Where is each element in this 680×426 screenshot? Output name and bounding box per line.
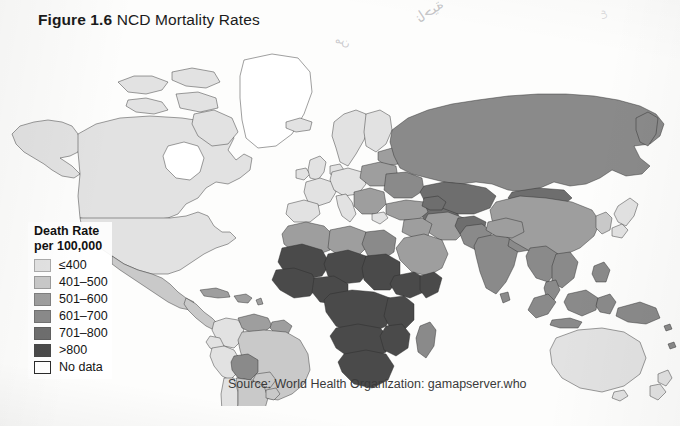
region-italy (336, 194, 356, 222)
region-balkans (354, 188, 386, 214)
region-sri-lanka (500, 292, 510, 303)
figure-number: Figure 1.6 (38, 11, 112, 28)
source-caption: Source: World Health Organization: gamap… (228, 377, 527, 391)
region-java (550, 318, 582, 328)
legend-swatch (34, 344, 51, 357)
legend-swatch (34, 259, 51, 272)
legend-item: >800 (34, 342, 108, 359)
legend-label: ≤400 (59, 259, 87, 272)
region-arctic-island-b (172, 68, 220, 88)
region-sulawesi (596, 294, 616, 314)
legend-label: 501–600 (59, 293, 108, 306)
region-finland (364, 110, 392, 152)
region-pacific-islands (664, 324, 672, 331)
region-hispaniola (234, 294, 252, 303)
region-japan (614, 198, 638, 226)
legend-item: ≤400 (34, 257, 108, 274)
legend-title-line1: Death Rate (34, 224, 108, 239)
region-united-kingdom (308, 156, 326, 180)
bleed-through-mark-secondary: ع (598, 5, 609, 19)
legend-label: 601–700 (59, 310, 108, 323)
figure-title-text: NCD Mortality Rates (117, 11, 260, 28)
region-turkey (386, 200, 428, 220)
legend-items: ≤400401–500501–600601–700701–800>800No d… (30, 257, 108, 376)
map-legend: Death Rate per 100,000 ≤400401–500501–60… (28, 222, 112, 379)
legend-swatch (34, 310, 51, 323)
region-madagascar (416, 322, 436, 358)
region-korea (596, 212, 612, 234)
region-iberia (286, 200, 320, 222)
bleed-through-annotation: ناحية (412, 0, 447, 27)
region-tasmania (612, 390, 628, 401)
legend-item: No data (34, 359, 108, 376)
region-australia (550, 328, 646, 392)
region-arctic-islands (118, 76, 168, 94)
region-greece (372, 212, 388, 224)
region-arctic-island-c (126, 98, 168, 114)
legend-label: 701–800 (59, 327, 108, 340)
legend-swatch (34, 293, 51, 306)
legend-label: No data (59, 361, 103, 374)
region-cuba (200, 288, 230, 298)
region-new-zealand-north (658, 370, 672, 386)
region-arctic-island-d (176, 92, 218, 112)
legend-item: 701–800 (34, 325, 108, 342)
region-ukraine (384, 172, 424, 198)
region-arabian-peninsula (396, 234, 448, 276)
region-alaska (12, 120, 82, 178)
region-russian-federation (390, 94, 664, 192)
legend-swatch (34, 276, 51, 289)
region-new-zealand-south (650, 384, 666, 400)
legend-label: >800 (59, 344, 87, 357)
region-sumatra (528, 294, 556, 318)
legend-title: Death Rate per 100,000 (34, 224, 108, 253)
legend-swatch (34, 361, 51, 374)
region-central-america (184, 298, 218, 330)
region-papua-new-guinea (616, 302, 660, 324)
region-fiji (668, 342, 676, 349)
region-philippines (592, 262, 610, 282)
legend-label: 401–500 (59, 276, 108, 289)
figure-title: Figure 1.6 NCD Mortality Rates (38, 11, 260, 29)
region-somalia (420, 272, 442, 298)
region-borneo (564, 290, 598, 316)
legend-item: 601–700 (34, 308, 108, 325)
figure-page: Figure 1.6 NCD Mortality Rates ناحية من … (0, 0, 680, 426)
region-lesser-antilles (256, 298, 263, 305)
region-greenland (240, 54, 312, 148)
legend-item: 501–600 (34, 291, 108, 308)
legend-swatch (34, 327, 51, 340)
region-japan-south (612, 224, 628, 238)
legend-item: 401–500 (34, 274, 108, 291)
region-norway-sweden (332, 110, 370, 166)
legend-title-line2: per 100,000 (34, 239, 108, 254)
